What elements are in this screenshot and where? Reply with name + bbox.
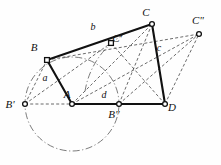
vertex-marker-D	[163, 102, 168, 107]
side-label-c: c	[157, 42, 162, 53]
point-label-C: C	[142, 6, 150, 18]
vertex-marker-A	[70, 102, 75, 107]
vertex-marker-C	[150, 22, 155, 27]
solid-edge-B-C	[47, 24, 152, 60]
vertex-marker-Bp	[23, 102, 28, 107]
figure-root: ABCDB'B"C'C"abcd	[0, 0, 221, 165]
vertex-marker-Bpp	[117, 102, 122, 107]
point-label-A: A	[63, 88, 71, 100]
point-label-Cp: C'	[112, 32, 122, 44]
vertex-marker-B	[45, 58, 50, 63]
dashed-edge-D-Cp	[165, 34, 199, 104]
point-label-Bp: B'	[5, 98, 15, 110]
geometry-diagram: ABCDB'B"C'C"abcd	[0, 0, 221, 165]
side-label-a: a	[43, 72, 48, 83]
point-label-D: D	[167, 101, 176, 113]
side-label-b: b	[91, 21, 96, 32]
point-label-Bpp: B"	[108, 108, 120, 120]
side-label-d: d	[102, 89, 108, 100]
labels-layer: ABCDB'B"C'C"abcd	[5, 6, 204, 120]
dashed-edge-Bp-C	[119, 24, 152, 104]
point-label-B: B	[31, 41, 38, 53]
point-label-Cpp: C"	[192, 14, 204, 26]
vertex-marker-Cpp	[197, 32, 202, 37]
